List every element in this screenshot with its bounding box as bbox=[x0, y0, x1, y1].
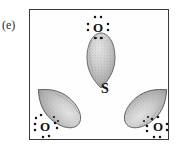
figure-root: (e) bbox=[0, 0, 176, 148]
oxygen-atom-bottom-left: O bbox=[40, 119, 50, 134]
bonding-lobe-top bbox=[87, 33, 115, 88]
oxygen-atom-top: O bbox=[93, 20, 103, 35]
oxygen-atom-bottom-right: O bbox=[153, 119, 163, 134]
sulfur-atom-label: S bbox=[101, 81, 109, 96]
molecule-diagram: S O O bbox=[0, 0, 176, 148]
bonding-lobe-bottom-left bbox=[29, 79, 87, 135]
